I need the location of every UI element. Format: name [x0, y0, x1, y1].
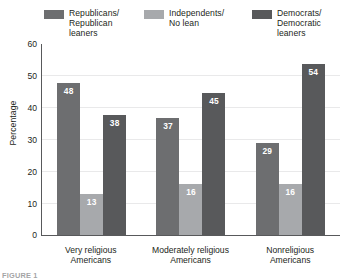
- bar-value-label: 16: [179, 187, 202, 197]
- chart-legend: Republicans/ Republican leaners Independ…: [0, 0, 342, 46]
- bar-nonreligious-democrats[interactable]: 54: [302, 64, 325, 235]
- legend-item-independents: Independents/ No lean: [144, 8, 224, 28]
- x-axis-labels: Very religious Americans Moderately reli…: [41, 245, 340, 266]
- chart-axes: 48 13 38 37 16 45: [41, 44, 340, 236]
- bar-very-religious-independents[interactable]: 13: [80, 194, 103, 235]
- bar-value-label: 45: [202, 96, 225, 106]
- legend-item-democrats: Democrats/ Democratic leaners: [252, 8, 321, 39]
- bar-moderately-religious-republicans[interactable]: 37: [156, 118, 179, 235]
- bar-value-label: 13: [80, 197, 103, 207]
- bar-very-religious-republicans[interactable]: 48: [57, 83, 80, 235]
- legend-label-republicans: Republicans/ Republican leaners: [69, 8, 119, 39]
- bar-value-label: 54: [302, 67, 325, 77]
- x-label-very-religious: Very religious Americans: [41, 245, 141, 266]
- legend-swatch-democrats: [252, 10, 272, 19]
- bar-very-religious-democrats[interactable]: 38: [103, 115, 126, 235]
- y-tick-40: 40: [14, 103, 37, 113]
- bar-group-moderately-religious: 37 16 45: [141, 45, 240, 235]
- y-tick-30: 30: [14, 135, 37, 145]
- legend-label-democrats: Democrats/ Democratic leaners: [277, 8, 321, 39]
- legend-label-independents: Independents/ No lean: [169, 8, 224, 28]
- x-label-nonreligious: Nonreligious Americans: [240, 245, 340, 266]
- bar-moderately-religious-democrats[interactable]: 45: [202, 93, 225, 236]
- bar-nonreligious-republicans[interactable]: 29: [256, 143, 279, 235]
- bar-value-label: 29: [256, 146, 279, 156]
- bar-nonreligious-independents[interactable]: 16: [279, 184, 302, 235]
- bar-value-label: 37: [156, 121, 179, 131]
- figure-caption: FIGURE 1: [2, 271, 38, 279]
- bar-value-label: 16: [279, 187, 302, 197]
- y-tick-60: 60: [14, 39, 37, 49]
- bar-value-label: 48: [57, 86, 80, 96]
- bar-group-nonreligious: 29 16 54: [241, 45, 340, 235]
- legend-swatch-independents: [144, 10, 164, 19]
- y-axis-ticks: 60 50 40 30 20 10 0: [14, 44, 37, 236]
- x-label-moderately-religious: Moderately religious Americans: [141, 245, 241, 266]
- bar-moderately-religious-independents[interactable]: 16: [179, 184, 202, 235]
- y-tick-10: 10: [14, 199, 37, 209]
- y-tick-50: 50: [14, 71, 37, 81]
- y-tick-0: 0: [14, 230, 37, 240]
- legend-item-republicans: Republicans/ Republican leaners: [44, 8, 119, 39]
- y-tick-20: 20: [14, 167, 37, 177]
- legend-swatch-republicans: [44, 10, 64, 19]
- bar-groups: 48 13 38 37 16 45: [42, 45, 340, 235]
- bar-group-very-religious: 48 13 38: [42, 45, 141, 235]
- chart-plot-area: Percentage 60 50 40 30 20 10 0 48 13 38: [0, 44, 342, 244]
- bar-value-label: 38: [103, 118, 126, 128]
